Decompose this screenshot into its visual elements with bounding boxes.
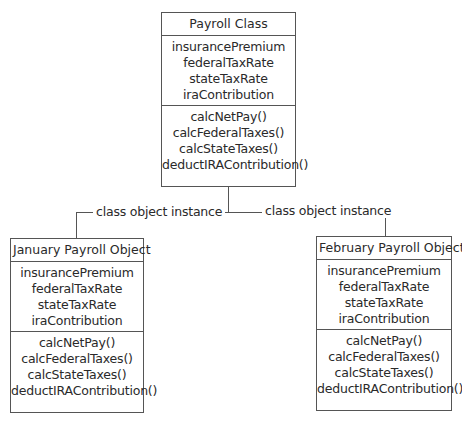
class-title: Payroll Class xyxy=(162,13,295,36)
attribute: federalTaxRate xyxy=(162,55,295,71)
object-attributes: insurancePremium federalTaxRate stateTax… xyxy=(317,260,451,330)
method: calcFederalTaxes() xyxy=(11,351,143,367)
object-methods: calcNetPay() calcFederalTaxes() calcStat… xyxy=(11,332,143,399)
method: calcNetPay() xyxy=(11,335,143,351)
attribute: iraContribution xyxy=(162,87,295,103)
attribute: federalTaxRate xyxy=(11,281,143,297)
stem-line xyxy=(228,186,229,213)
attribute: insurancePremium xyxy=(11,265,143,281)
class-methods: calcNetPay() calcFederalTaxes() calcStat… xyxy=(162,106,295,173)
february-object-box: February Payroll Object insurancePremium… xyxy=(316,236,452,411)
object-methods: calcNetPay() calcFederalTaxes() calcStat… xyxy=(317,330,451,397)
attribute: federalTaxRate xyxy=(317,279,451,295)
method: deductIRAContribution() xyxy=(317,381,451,397)
method: calcFederalTaxes() xyxy=(317,349,451,365)
attribute: iraContribution xyxy=(317,311,451,327)
attribute: stateTaxRate xyxy=(162,71,295,87)
left-branch-line xyxy=(76,212,77,238)
method: deductIRAContribution() xyxy=(11,383,143,399)
method: calcStateTaxes() xyxy=(11,367,143,383)
object-attributes: insurancePremium federalTaxRate stateTax… xyxy=(11,262,143,332)
method: calcNetPay() xyxy=(162,109,295,125)
left-connector-label: class object instance xyxy=(93,205,225,219)
method: deductIRAContribution() xyxy=(162,157,295,173)
payroll-class-box: Payroll Class insurancePremium federalTa… xyxy=(161,12,296,187)
attribute: iraContribution xyxy=(11,313,143,329)
attribute: stateTaxRate xyxy=(11,297,143,313)
attribute: stateTaxRate xyxy=(317,295,451,311)
class-attributes: insurancePremium federalTaxRate stateTax… xyxy=(162,36,295,106)
right-connector-label: class object instance xyxy=(262,204,394,218)
attribute: insurancePremium xyxy=(317,263,451,279)
january-object-box: January Payroll Object insurancePremium … xyxy=(10,238,144,413)
method: calcFederalTaxes() xyxy=(162,125,295,141)
object-title: January Payroll Object xyxy=(11,239,143,262)
attribute: insurancePremium xyxy=(162,39,295,55)
method: calcNetPay() xyxy=(317,333,451,349)
method: calcStateTaxes() xyxy=(317,365,451,381)
object-title: February Payroll Object xyxy=(317,237,451,260)
method: calcStateTaxes() xyxy=(162,141,295,157)
